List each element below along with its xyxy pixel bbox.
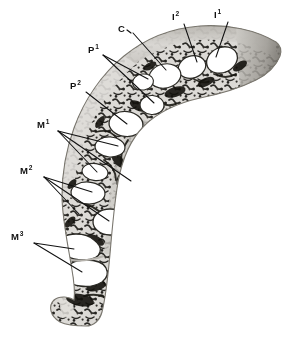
label-first-premolar: P1 <box>88 45 99 55</box>
alveolus-M1-lower <box>117 168 150 195</box>
label-second-molar-text: M <box>20 165 28 176</box>
label-third-molar-sup: 3 <box>20 230 24 237</box>
bone-specimen <box>0 0 285 342</box>
label-second-incisor-sup: 2 <box>176 10 180 17</box>
label-first-incisor: I1 <box>214 10 222 20</box>
label-second-incisor: I2 <box>172 12 180 22</box>
label-canine-text: C <box>118 23 125 34</box>
label-first-molar-sup: 1 <box>46 118 50 125</box>
label-second-premolar: P2 <box>70 81 81 91</box>
maxilla-section-image <box>0 0 285 342</box>
label-second-premolar-text: P <box>70 80 77 91</box>
label-first-premolar-sup: 1 <box>95 43 99 50</box>
figure-root: I1 I2 C P1 P2 M1 M2 M3 <box>0 0 285 342</box>
label-second-molar: M2 <box>20 166 33 176</box>
alveolus-M2-lower <box>93 208 128 235</box>
label-first-incisor-text: I <box>214 9 217 20</box>
label-second-molar-sup: 2 <box>29 164 33 171</box>
label-first-molar: M1 <box>37 120 50 130</box>
label-second-incisor-text: I <box>172 11 175 22</box>
label-third-molar: M3 <box>11 232 24 242</box>
label-first-molar-text: M <box>37 119 45 130</box>
label-first-incisor-sup: 1 <box>218 8 222 15</box>
label-first-premolar-text: P <box>88 44 95 55</box>
leader-C-tick <box>127 30 131 33</box>
label-third-molar-text: M <box>11 231 19 242</box>
label-second-premolar-sup: 2 <box>77 79 81 86</box>
label-canine: C <box>118 24 126 34</box>
